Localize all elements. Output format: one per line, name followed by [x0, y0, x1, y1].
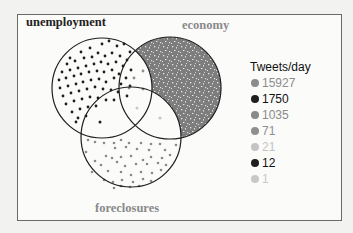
legend-item: 1750 [250, 91, 311, 107]
legend-dot-icon [251, 143, 259, 151]
legend-dot-icon [251, 175, 259, 183]
foreclosures-label: foreclosures [95, 201, 159, 216]
legend-dot-icon [251, 127, 259, 135]
legend: Tweets/day 15927 1750 1035 71 21 12 1 [250, 60, 311, 187]
legend-value: 71 [262, 124, 275, 138]
legend-dot-icon [251, 159, 259, 167]
legend-item: 1 [250, 171, 311, 187]
legend-dot-icon [251, 111, 259, 119]
legend-item: 21 [250, 139, 311, 155]
legend-dot-icon [251, 79, 259, 87]
legend-value: 1 [262, 172, 269, 186]
legend-value: 21 [262, 140, 275, 154]
legend-item: 15927 [250, 75, 311, 91]
unemployment-foreclosures-dots [99, 121, 102, 124]
legend-dot-icon [251, 95, 259, 103]
legend-item: 12 [250, 155, 311, 171]
legend-value: 15927 [262, 76, 295, 90]
legend-item: 1035 [250, 107, 311, 123]
unemployment-label: unemployment [26, 15, 106, 30]
legend-value: 12 [262, 156, 275, 170]
triple-intersection-dots [136, 107, 139, 110]
legend-title: Tweets/day [250, 60, 311, 74]
foreclosures-dots [85, 139, 178, 190]
legend-value: 1035 [262, 108, 289, 122]
economy-foreclosures-dots [159, 117, 162, 120]
legend-item: 71 [250, 123, 311, 139]
legend-value: 1750 [262, 92, 289, 106]
economy-label: economy [182, 18, 229, 33]
